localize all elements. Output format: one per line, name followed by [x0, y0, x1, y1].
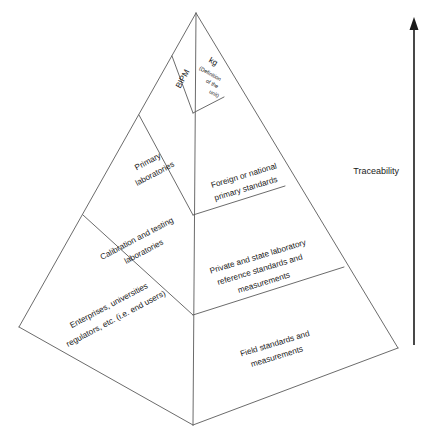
traceability-arrow-head — [410, 17, 419, 30]
diagram-canvas: BIPM kg (Definition of the unit) Primary… — [0, 0, 433, 440]
traceability-arrow — [410, 17, 419, 345]
pyramid-right-face — [193, 13, 398, 425]
traceability-label: Traceability — [353, 166, 399, 176]
traceability-pyramid: BIPM kg (Definition of the unit) Primary… — [0, 0, 433, 440]
